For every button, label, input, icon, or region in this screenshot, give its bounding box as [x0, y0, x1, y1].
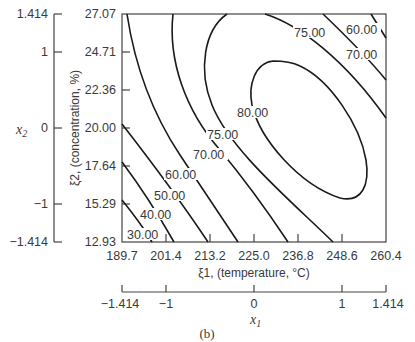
x1-tick: 0 — [251, 297, 258, 311]
y-tick: 15.29 — [85, 197, 116, 211]
x-tick: 260.4 — [370, 249, 401, 263]
contour-label-60-upper: 60.00 — [346, 23, 377, 37]
contour-label-60: 60.00 — [165, 168, 196, 182]
contour-label-50: 50.00 — [154, 189, 185, 203]
coded-x1-axis: −1.414 −1 0 1 1.414 x1 — [101, 285, 404, 329]
contour-80 — [251, 61, 367, 199]
x-ticks: 189.7 201.4 213.2 225.0 236.8 248.6 260.… — [106, 249, 401, 263]
x2-tick: −1 — [34, 197, 48, 211]
contour-50 — [122, 124, 208, 242]
x2-axis-label: x2 — [15, 122, 27, 139]
contour-label-80: 80.00 — [237, 106, 268, 120]
x-tick: 201.4 — [150, 249, 181, 263]
contour-label-40: 40.00 — [140, 208, 171, 222]
y-tick: 22.36 — [85, 83, 116, 97]
x-tick: 189.7 — [106, 249, 137, 263]
x1-tick: 1 — [339, 297, 346, 311]
contour-label-75: 75.00 — [207, 128, 238, 142]
x1-tick: −1.414 — [101, 297, 140, 311]
figure-caption: (b) — [199, 326, 214, 341]
x-tick: 225.0 — [238, 249, 269, 263]
y-tick: 20.00 — [85, 121, 116, 135]
y-tick: 17.64 — [85, 159, 116, 173]
x-tick: 213.2 — [194, 249, 225, 263]
contour-chart: 1.414 1 0 −1 −1.414 x2 ξ2, (concentratio… — [0, 0, 415, 342]
y-tick: 12.93 — [85, 235, 116, 249]
y-tick: 27.07 — [85, 7, 116, 21]
y-ticks: 27.07 24.71 22.36 20.00 17.64 15.29 12.9… — [85, 7, 116, 249]
contour-label-70-upper: 70.00 — [346, 48, 377, 62]
coded-x2-axis: 1.414 1 0 −1 −1.414 x2 — [9, 7, 62, 249]
x-axis-title: ξ1, (temperature, °C) — [198, 266, 310, 280]
x1-tick: 1.414 — [372, 297, 403, 311]
contour-label-30: 30.00 — [127, 228, 158, 242]
x2-tick: 0 — [41, 121, 48, 135]
x-tick: 236.8 — [282, 249, 313, 263]
contour-labels: 30.00 40.00 50.00 60.00 70.00 75.00 80.0… — [126, 23, 381, 242]
x2-tick: 1.414 — [17, 7, 48, 21]
x-tick: 248.6 — [326, 249, 357, 263]
x1-axis-label: x1 — [249, 312, 261, 329]
y-axis-title: ξ2, (concentration, %) — [68, 70, 82, 186]
x2-tick: −1.414 — [9, 235, 48, 249]
y-tick: 24.71 — [85, 45, 116, 59]
contour-label-75-upper: 75.00 — [294, 26, 325, 40]
x1-tick: −1 — [159, 297, 173, 311]
contour-label-70: 70.00 — [193, 148, 224, 162]
x2-tick: 1 — [41, 45, 48, 59]
